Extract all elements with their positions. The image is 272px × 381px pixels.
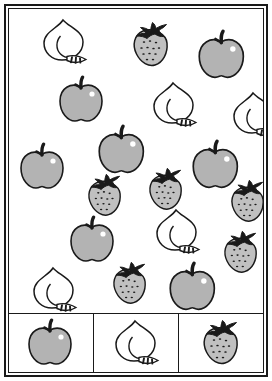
strawberry-icon [220, 228, 263, 276]
peach-icon [151, 206, 203, 256]
apple-icon [165, 260, 220, 313]
apple-icon [66, 214, 118, 264]
peach-icon [28, 264, 80, 313]
worksheet-page [0, 0, 272, 381]
peach-icon [38, 16, 90, 66]
legend-cell-strawberry[interactable] [179, 314, 264, 373]
apple-icon [55, 74, 107, 124]
strawberry-icon [227, 177, 263, 225]
peach-icon [148, 79, 200, 129]
strawberry-icon [84, 171, 128, 219]
strawberry-icon [199, 317, 245, 371]
legend-cell-peach[interactable] [94, 314, 180, 373]
fruit-scatter-area [9, 9, 263, 313]
apple-icon [194, 28, 249, 81]
legend-cell-apple[interactable] [8, 314, 94, 373]
peach-icon [110, 317, 162, 371]
strawberry-icon [109, 259, 153, 307]
apple-icon [24, 317, 76, 371]
peach-icon [228, 89, 263, 139]
apple-icon [94, 123, 149, 176]
strawberry-icon [129, 19, 175, 69]
fruit-key-row [8, 313, 264, 373]
apple-icon [16, 141, 68, 191]
